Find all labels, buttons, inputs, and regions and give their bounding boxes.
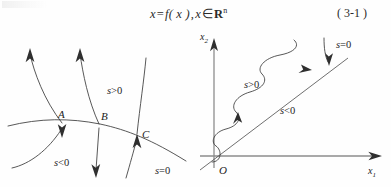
- chattering-trajectory: [212, 40, 297, 162]
- s-zero-approach-arrow: [325, 53, 333, 66]
- equation-lhs: x: [150, 7, 156, 21]
- equation-dimension-exponent: n: [223, 6, 227, 15]
- equation-member-symbol: ∈: [201, 7, 214, 21]
- equation-line: x=f( x ),x∈Rn ( 3-1 ): [0, 6, 391, 26]
- label-s-zero-left: s=0: [155, 165, 170, 176]
- trajectory-curve-b-upper: [80, 54, 99, 124]
- figure-right: x2 x1 O s>0 s<0 s=0: [192, 28, 391, 187]
- equation-expression: x=f( x ),x∈Rn: [150, 6, 228, 22]
- trajectory-curve-b-lower: [96, 128, 99, 170]
- label-origin: O: [219, 164, 227, 176]
- label-s-negative-left: s<0: [54, 157, 69, 168]
- equation-rhs: f( x ): [165, 7, 190, 21]
- trajectory-arrow-upper: [299, 65, 313, 74]
- label-s-negative-right: s<0: [280, 105, 295, 116]
- equation-real-set: R: [214, 7, 223, 21]
- figure-left: A B C s>0 s<0 s=0: [0, 38, 196, 187]
- label-s-positive-left: s>0: [107, 85, 122, 96]
- sliding-surface-line: [200, 58, 348, 170]
- trajectory-arrow-a-upper: [26, 48, 35, 62]
- label-s-zero-right: s=0: [336, 39, 351, 50]
- equation-variable: x: [195, 7, 201, 21]
- trajectory-arrow-b-lower: [91, 164, 100, 178]
- label-x-axis: x1: [367, 165, 376, 179]
- trajectory-arrow-b-upper: [76, 48, 85, 62]
- label-point-c: C: [142, 128, 150, 140]
- trajectory-arrow-a-point: [58, 124, 67, 138]
- figure-page: x=f( x ),x∈Rn ( 3-1 ) A: [0, 0, 391, 187]
- label-y-axis: x2: [199, 31, 208, 45]
- equation-number: ( 3-1 ): [337, 6, 367, 21]
- trajectory-curve-c-upper: [137, 58, 146, 134]
- label-point-b: B: [101, 110, 108, 122]
- equation-equals: =: [156, 7, 165, 21]
- label-point-a: A: [57, 108, 65, 120]
- label-s-positive-right: s>0: [244, 79, 259, 90]
- trajectory-curve-c-lower: [126, 142, 136, 178]
